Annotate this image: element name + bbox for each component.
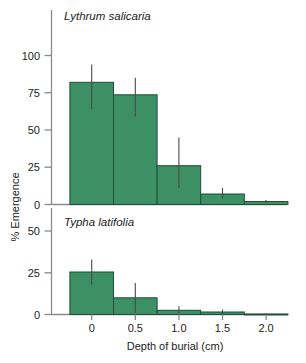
x-ticklabel-1.5: 1.5	[215, 322, 230, 334]
top-y-ticklabel-25: 25	[28, 161, 40, 173]
bottom-y-ticklabel-50: 50	[28, 225, 40, 237]
x-ticklabel-2.0: 2.0	[258, 322, 273, 334]
x-ticklabel-0: 0	[89, 322, 95, 334]
top-y-ticklabel-100: 100	[22, 50, 40, 62]
bottom-y-ticklabel-25: 25	[28, 267, 40, 279]
bottom-panel-title: Typha latifolia	[64, 216, 134, 228]
x-axis-title: Depth of burial (cm)	[127, 340, 224, 352]
emergence-depth-figure: 100 75 50 25 0 Lythrum salicaria	[0, 0, 306, 363]
figure-canvas: 100 75 50 25 0 Lythrum salicaria	[0, 0, 306, 363]
top-panel-title: Lythrum salicaria	[64, 10, 151, 22]
top-y-ticklabel-0: 0	[34, 199, 40, 211]
y-axis-title: % Emergence	[9, 172, 21, 241]
bottom-y-ticklabel-0: 0	[34, 309, 40, 321]
x-ticklabel-1.0: 1.0	[171, 322, 186, 334]
x-ticklabel-0.5: 0.5	[128, 322, 143, 334]
top-y-ticklabel-50: 50	[28, 124, 40, 136]
top-y-ticklabel-75: 75	[28, 87, 40, 99]
